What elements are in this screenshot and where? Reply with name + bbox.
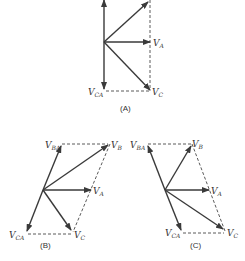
label-vc: VC bbox=[74, 230, 86, 241]
label-va: VA bbox=[93, 186, 105, 197]
vector-vba bbox=[148, 146, 165, 190]
label-vca: VCA bbox=[165, 228, 181, 239]
diagram-a: VA VC VCA (A) bbox=[88, 0, 165, 113]
label-va: VA bbox=[153, 38, 165, 49]
label-vb: VB bbox=[111, 140, 123, 151]
label-vc: VC bbox=[227, 228, 239, 239]
label-vc: VC bbox=[152, 87, 164, 98]
label-vba: VBA bbox=[130, 140, 146, 151]
vector-vb bbox=[165, 146, 191, 190]
label-vb: VB bbox=[192, 139, 204, 150]
dashed-line-right bbox=[192, 144, 225, 231]
vector-vc bbox=[43, 190, 71, 230]
vector-vb-diagonal bbox=[104, 2, 148, 42]
caption-a: (A) bbox=[120, 104, 131, 113]
diagram-b: VBA VB VA VC VCA (B) bbox=[9, 140, 123, 250]
label-vca: VCA bbox=[88, 87, 104, 98]
diagram-c: VBA VB VA VC VCA (C) bbox=[130, 139, 239, 250]
phasor-diagrams: VA VC VCA (A) VBA VB VA VC VCA (B) VBA V… bbox=[0, 0, 245, 261]
caption-b: (B) bbox=[40, 241, 51, 250]
label-va: VA bbox=[211, 186, 223, 197]
label-vca: VCA bbox=[9, 230, 25, 241]
label-vba: VBA bbox=[45, 140, 61, 151]
vector-vc bbox=[104, 42, 150, 90]
vector-vca bbox=[27, 190, 43, 231]
caption-c: (C) bbox=[190, 241, 201, 250]
